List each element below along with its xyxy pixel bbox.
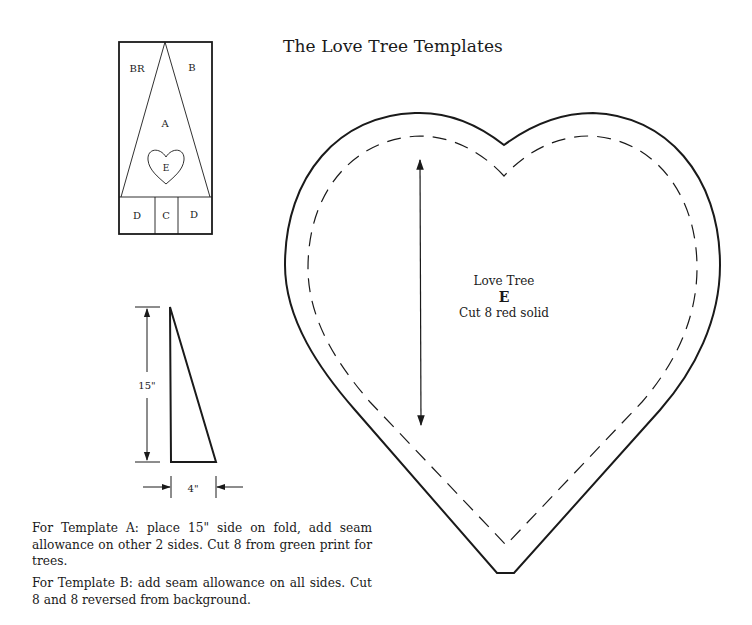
grainline-arrow (420, 160, 421, 425)
label-br: BR (130, 63, 145, 74)
heart-outline (285, 113, 720, 573)
height-dimension: 15" (138, 379, 155, 392)
heart-template (285, 113, 720, 573)
heart-instructions: Cut 8 red solid (459, 305, 549, 321)
heart-seam-line (308, 136, 697, 545)
heart-name: Love Tree (459, 273, 549, 289)
label-a: A (161, 118, 168, 129)
note-template-b: For Template B: add seam allowance on al… (32, 575, 372, 608)
heart-label: Love Tree E Cut 8 red solid (459, 273, 549, 321)
note-template-a: For Template A: place 15" side on fold, … (32, 520, 372, 570)
label-d-left: D (133, 210, 141, 221)
heart-letter: E (459, 289, 549, 305)
template-a-drawing (135, 307, 243, 498)
width-dimension: 4" (188, 483, 199, 494)
label-c: C (162, 210, 170, 221)
label-e: E (163, 163, 170, 173)
page-title: The Love Tree Templates (283, 36, 503, 56)
label-d-right: D (190, 209, 198, 220)
label-b: B (188, 62, 195, 73)
